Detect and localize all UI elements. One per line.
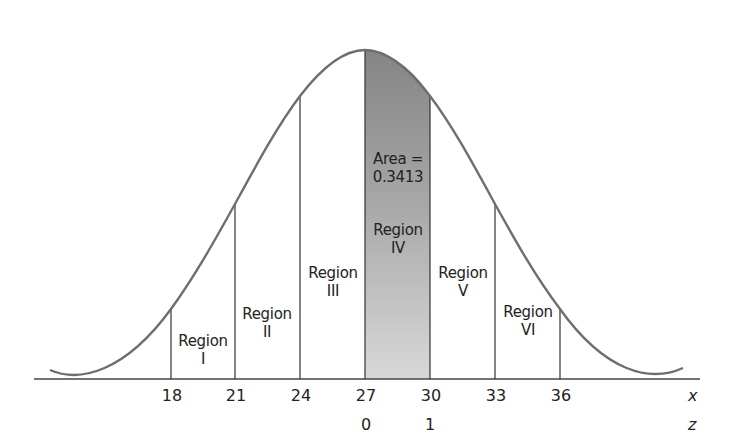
z-tick-0: 0 [361,416,371,434]
x-axis-variable: x [688,386,697,405]
x-tick-36: 36 [551,387,571,405]
x-tick-21: 21 [226,387,246,405]
region-iv-label: Region IV [373,221,423,257]
region-vi-label: Region VI [503,303,553,339]
x-tick-24: 24 [291,387,311,405]
region-v-label: Region V [438,264,488,300]
region-iii-label: Region III [308,264,358,300]
area-label-value: 0.3413 [373,168,424,186]
normal-distribution-diagram: Area = 0.3413 Region I Region II Region … [0,0,735,434]
area-label-line1: Area = [373,150,424,168]
area-annotation: Area = 0.3413 [373,150,424,186]
z-tick-1: 1 [425,416,435,434]
x-tick-18: 18 [162,387,182,405]
region-ii-label: Region II [242,305,292,341]
curve-canvas [0,0,735,434]
x-tick-27: 27 [356,387,376,405]
region-i-label: Region I [178,332,228,368]
z-axis-variable: z [688,415,696,434]
x-tick-33: 33 [486,387,506,405]
x-tick-30: 30 [421,387,441,405]
region-iv-shading [365,50,430,379]
